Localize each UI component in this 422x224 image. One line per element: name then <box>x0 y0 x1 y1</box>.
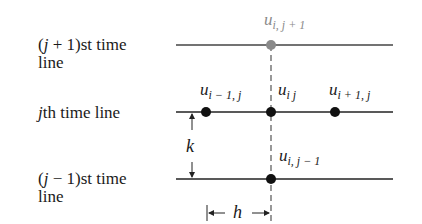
label-j-minus-1: (j − 1)st time line <box>38 170 126 206</box>
node-label-u-im1-j: ui − 1, j <box>200 80 241 103</box>
node-u-ip1-j <box>330 107 340 117</box>
node-u-i-jp1 <box>266 40 276 50</box>
node-label-u-ij: ui j <box>278 80 296 103</box>
node-u-i-jm1 <box>266 174 276 184</box>
k-label: k <box>186 136 194 157</box>
node-label-u-ip1-j: ui + 1, j <box>329 80 370 103</box>
node-u-im1-j <box>201 107 211 117</box>
node-u-ij <box>266 107 276 117</box>
label-j-plus-1: (j + 1)st time line <box>38 36 126 72</box>
node-label-u-i-jm1: ui, j − 1 <box>279 146 320 169</box>
node-label-u-i-jp1: ui, j + 1 <box>264 10 305 33</box>
label-j: jth time line <box>38 104 120 122</box>
h-label: h <box>233 202 242 223</box>
